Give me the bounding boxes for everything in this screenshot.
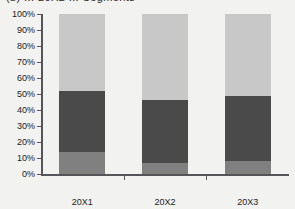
y-tick-mark	[37, 14, 41, 15]
y-axis-tick-label: 50%	[17, 89, 35, 99]
y-tick-mark	[37, 174, 41, 175]
y-axis-tick-label: 80%	[17, 41, 35, 51]
x-tick-mark	[124, 176, 125, 180]
y-tick-mark	[37, 94, 41, 95]
bar-segment[interactable]	[225, 14, 271, 96]
bar-segment[interactable]	[59, 14, 105, 91]
y-axis-tick-label: 30%	[17, 121, 35, 131]
bar-segment[interactable]	[59, 91, 105, 152]
chart-title-clipped: (b) ... 20X2 ... Segments	[0, 0, 295, 5]
y-axis-tick-label: 100%	[12, 9, 35, 19]
y-tick-mark	[37, 78, 41, 79]
y-tick-mark	[37, 30, 41, 31]
y-tick-mark	[37, 46, 41, 47]
x-axis-line	[41, 174, 289, 176]
bar-stack[interactable]	[225, 14, 271, 174]
plot-area: 0%10%20%30%40%50%60%70%80%90%100% 20X120…	[41, 14, 289, 176]
x-axis-category-label: 20X2	[154, 197, 175, 207]
x-axis-category-label: 20X1	[72, 197, 93, 207]
x-tick-mark	[206, 176, 207, 180]
x-axis-category-label: 20X3	[237, 197, 258, 207]
bar-stack[interactable]	[59, 14, 105, 174]
y-axis-tick-label: 0%	[22, 169, 35, 179]
y-axis-tick-label: 70%	[17, 57, 35, 67]
y-axis-tick-label: 90%	[17, 25, 35, 35]
y-tick-mark	[37, 142, 41, 143]
y-axis-tick-label: 60%	[17, 73, 35, 83]
y-tick-mark	[37, 62, 41, 63]
y-tick-mark	[37, 110, 41, 111]
bar-segment[interactable]	[142, 14, 188, 100]
bar-segment[interactable]	[59, 152, 105, 174]
bar-stack[interactable]	[142, 14, 188, 174]
bar-segment[interactable]	[142, 100, 188, 162]
chart-title-text: (b) ... 20X2 ... Segments	[0, 0, 295, 4]
y-axis-tick-label: 40%	[17, 105, 35, 115]
y-axis-tick-label: 10%	[17, 153, 35, 163]
y-axis-line	[41, 14, 43, 176]
y-axis-tick-label: 20%	[17, 137, 35, 147]
bar-segment[interactable]	[225, 96, 271, 162]
y-tick-mark	[37, 126, 41, 127]
bar-segment[interactable]	[142, 163, 188, 174]
y-tick-mark	[37, 158, 41, 159]
stacked-bar-chart: (b) ... 20X2 ... Segments 0%10%20%30%40%…	[0, 0, 295, 209]
bar-segment[interactable]	[225, 161, 271, 174]
